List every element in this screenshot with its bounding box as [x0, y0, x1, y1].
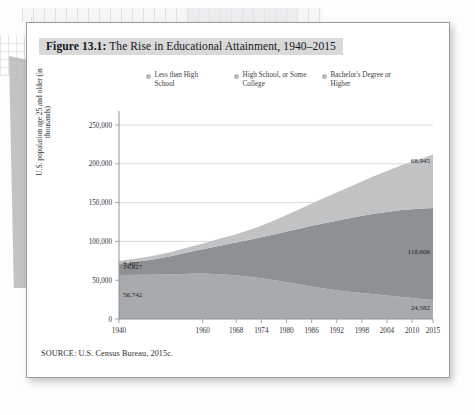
figure-source: SOURCE: U.S. Census Bureau, 2015c. — [41, 349, 173, 358]
y-axis-label: U.S. population age 25 and older (in tho… — [36, 57, 53, 187]
svg-text:1992: 1992 — [330, 327, 345, 335]
legend-item-label: High School, or Some College — [243, 71, 307, 88]
data-value-label: 118,606 — [408, 248, 431, 256]
chart-legend: Less than High School High School, or So… — [145, 71, 395, 88]
svg-text:1980: 1980 — [279, 327, 294, 335]
svg-text:1974: 1974 — [254, 327, 269, 335]
legend-item-high-school-some-college[interactable]: High School, or Some College — [234, 71, 307, 88]
data-value-label: 68,945 — [411, 157, 431, 165]
svg-text:200,000: 200,000 — [89, 160, 113, 168]
legend-item-label: Less than High School — [155, 71, 219, 88]
page-title: Figure 13.1: The Rise in Educational Att… — [39, 38, 343, 55]
legend-item-less-than-high-school[interactable]: Less than High School — [146, 71, 219, 88]
svg-text:1998: 1998 — [355, 327, 370, 335]
stacked-area-chart: 050,000100,000150,000200,000250,00019401… — [37, 99, 441, 349]
legend-swatch-icon — [322, 74, 327, 79]
legend-item-label: Bachelor's Degree or Higher — [331, 71, 395, 88]
svg-text:2015: 2015 — [426, 327, 441, 335]
legend-swatch-icon — [234, 74, 239, 79]
figure-title-row: Figure 13.1: The Rise in Educational Att… — [39, 36, 343, 55]
svg-text:150,000: 150,000 — [89, 199, 113, 207]
svg-text:0: 0 — [108, 316, 112, 324]
data-value-label: 14,627 — [123, 263, 143, 271]
svg-text:1986: 1986 — [304, 327, 319, 335]
svg-text:2010: 2010 — [405, 327, 420, 335]
data-value-label: 24,582 — [411, 304, 431, 312]
data-value-label: 56,742 — [123, 291, 143, 299]
svg-text:2004: 2004 — [380, 327, 395, 335]
svg-text:250,000: 250,000 — [89, 122, 113, 130]
figure-number: Figure 13.1: — [46, 40, 106, 52]
svg-text:1968: 1968 — [229, 327, 244, 335]
legend-swatch-icon — [146, 74, 151, 79]
figure-card: Figure 13.1: The Rise in Educational Att… — [26, 22, 450, 378]
chart-container: U.S. population age 25 and older (in tho… — [37, 99, 441, 349]
legend-item-bachelors-degree-or-higher[interactable]: Bachelor's Degree or Higher — [322, 71, 395, 88]
figure-title-text: The Rise in Educational Attainment, 1940… — [106, 40, 336, 52]
svg-text:100,000: 100,000 — [89, 238, 113, 246]
svg-text:1960: 1960 — [196, 327, 211, 335]
svg-text:50,000: 50,000 — [92, 277, 112, 285]
svg-text:1940: 1940 — [112, 327, 127, 335]
